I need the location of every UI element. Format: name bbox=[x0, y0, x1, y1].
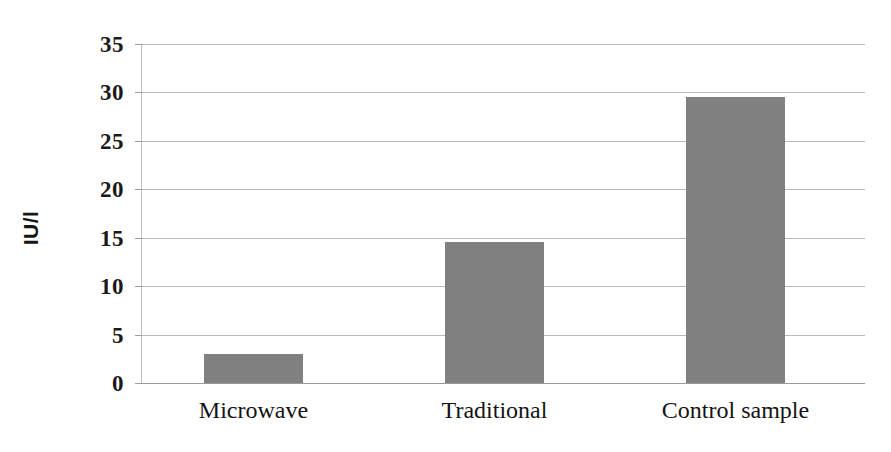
gridline bbox=[142, 92, 865, 93]
x-axis-tick-label: Microwave bbox=[199, 398, 308, 423]
y-axis-title-text: IU/l bbox=[19, 211, 43, 246]
x-axis-tick-label: Traditional bbox=[442, 398, 548, 423]
y-axis-tick-label: 15 bbox=[72, 226, 124, 249]
bar bbox=[204, 354, 303, 383]
y-axis-tick-label: 0 bbox=[72, 372, 124, 395]
gridline bbox=[142, 44, 865, 45]
y-axis-tick-mark bbox=[135, 335, 142, 336]
plot-area bbox=[142, 44, 865, 383]
bar bbox=[686, 97, 785, 383]
y-axis-tick-mark bbox=[135, 238, 142, 239]
y-axis-tick-label: 25 bbox=[72, 129, 124, 152]
y-axis-tick-mark bbox=[135, 286, 142, 287]
y-axis-tick-mark bbox=[135, 189, 142, 190]
y-axis-tick-label: 35 bbox=[72, 33, 124, 56]
x-axis-tick-labels: MicrowaveTraditionalControl sample bbox=[142, 398, 865, 438]
y-axis-tick-label: 30 bbox=[72, 81, 124, 104]
x-axis-tick-label: Control sample bbox=[662, 398, 809, 423]
y-axis-tick-labels: 05101520253035 bbox=[62, 0, 124, 452]
gridline bbox=[142, 383, 865, 384]
y-axis-tick-mark bbox=[135, 383, 142, 384]
y-axis-title: IU/l bbox=[6, 178, 56, 278]
chart-figure: IU/l 05101520253035 MicrowaveTraditional… bbox=[0, 0, 891, 452]
y-axis-tick-mark bbox=[135, 141, 142, 142]
y-axis-tick-label: 5 bbox=[72, 323, 124, 346]
y-axis-tick-label: 10 bbox=[72, 275, 124, 298]
y-axis-tick-mark bbox=[135, 44, 142, 45]
y-axis-tick-label: 20 bbox=[72, 178, 124, 201]
bar bbox=[445, 242, 544, 383]
y-axis-tick-mark bbox=[135, 92, 142, 93]
